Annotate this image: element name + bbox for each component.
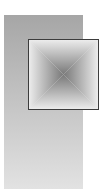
square-gradient-swatch bbox=[28, 39, 99, 110]
